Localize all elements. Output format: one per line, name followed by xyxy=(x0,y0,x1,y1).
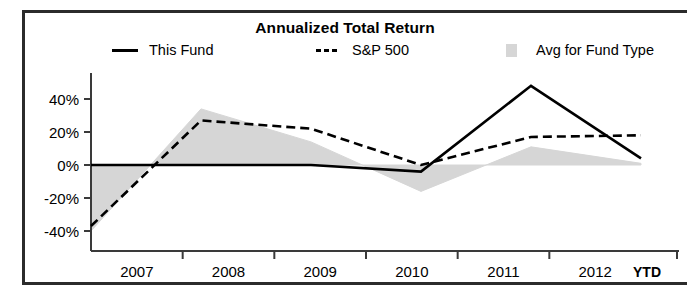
plot-svg: 40%20%0%-20%-40% xyxy=(25,61,687,285)
legend-item-this-fund: This Fund xyxy=(110,39,213,61)
legend-label-avg-for-fund-type: Avg for Fund Type xyxy=(536,42,654,58)
x-axis-label-2012: 2012 xyxy=(549,263,641,281)
chart-title: Annualized Total Return xyxy=(25,19,665,36)
x-axis-ytd-label: YTD xyxy=(633,263,661,281)
solid-line-swatch-icon xyxy=(110,42,140,58)
x-axis-label-2011: 2011 xyxy=(458,263,550,281)
y-axis-tick-label: 0% xyxy=(57,157,79,174)
y-axis-tick-label: 40% xyxy=(49,91,79,108)
chart-frame: Annualized Total Return This Fund S&P 50… xyxy=(22,10,687,285)
legend-item-avg-for-fund-type: Avg for Fund Type xyxy=(497,39,654,61)
legend-item-sp500: S&P 500 xyxy=(313,39,409,61)
dashed-line-swatch-icon xyxy=(313,42,343,58)
x-axis-labels: 200720082009201020112012YTD xyxy=(25,263,689,285)
plot-area: 40%20%0%-20%-40% xyxy=(25,61,687,285)
area-swatch-icon xyxy=(497,42,527,58)
y-axis-tick-label: -20% xyxy=(44,190,79,207)
y-axis-tick-label: -40% xyxy=(44,223,79,240)
x-axis-label-2010: 2010 xyxy=(366,263,458,281)
legend-label-sp500: S&P 500 xyxy=(352,42,409,58)
x-axis-label-2009: 2009 xyxy=(274,263,366,281)
area-series-avg-for-fund-type xyxy=(91,109,641,231)
x-axis-label-2007: 2007 xyxy=(91,263,183,281)
chart-legend: This Fund S&P 500 Avg for Fund Type xyxy=(25,39,689,61)
x-axis-label-2008: 2008 xyxy=(183,263,275,281)
y-axis-tick-label: 20% xyxy=(49,124,79,141)
legend-label-this-fund: This Fund xyxy=(149,42,213,58)
line-series-s-p-500 xyxy=(91,120,641,226)
